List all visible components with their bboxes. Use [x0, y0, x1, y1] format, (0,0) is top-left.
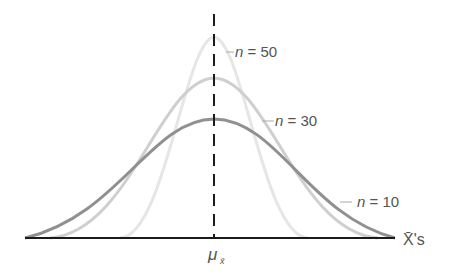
mu-label: μ [207, 245, 218, 264]
curve-n10 [25, 119, 395, 238]
mu-subscript: x̄ [219, 256, 225, 266]
x-axis-label: X̄'s [403, 231, 425, 248]
sampling-distribution-diagram: n = 50 n = 30 n = 10 μ x̄ X̄'s [0, 0, 453, 276]
label-n50: n = 50 [235, 43, 277, 60]
label-n30: n = 30 [275, 112, 317, 129]
label-n10: n = 10 [357, 193, 399, 210]
